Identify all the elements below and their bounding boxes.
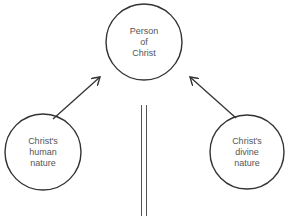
label-line: nature: [13, 158, 73, 169]
arrow-human-to-person: [53, 77, 100, 119]
label-line: Christ's: [13, 136, 73, 147]
label-line: nature: [217, 158, 277, 169]
label-line: of: [114, 37, 174, 48]
label-line: divine: [217, 147, 277, 158]
label-line: Christ: [114, 48, 174, 59]
arrow-divine-to-person: [190, 77, 236, 118]
label-line: Christ's: [217, 136, 277, 147]
node-human-label: Christ's human nature: [13, 136, 73, 169]
node-divine-label: Christ's divine nature: [217, 136, 277, 169]
label-line: human: [13, 147, 73, 158]
node-person-label: Person of Christ: [114, 26, 174, 59]
label-line: Person: [114, 26, 174, 37]
